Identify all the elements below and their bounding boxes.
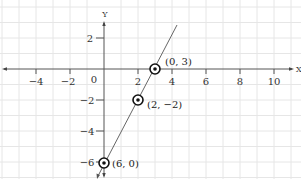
y-axis-arrow-up-icon: [102, 21, 105, 26]
grid: [0, 0, 301, 179]
x-tick-label: 2: [135, 76, 141, 87]
coordinate-graph: −4 −2 0 2 4 6 8 10 2 −2 −4 −6 Y X (0, 3)…: [0, 0, 301, 179]
point-0-3: [150, 64, 160, 74]
x-tick-label: 4: [169, 76, 175, 87]
y-tick-label: −4: [80, 126, 95, 137]
point-2-neg2: [133, 95, 143, 105]
y-tick-label: −6: [80, 157, 95, 168]
x-tick-label: 8: [237, 76, 243, 87]
point-label: (2, −2): [147, 99, 182, 110]
y-axis-label: Y: [101, 10, 108, 19]
point-label: (0, 3): [165, 56, 192, 67]
origin-label: 0: [91, 74, 97, 85]
x-tick-label: 6: [203, 76, 209, 87]
y-ticks: [96, 38, 104, 162]
x-axis-arrow-left-icon: [2, 67, 7, 70]
y-tick-label: −2: [80, 95, 95, 106]
y-tick-label: 2: [87, 33, 93, 44]
point-6-0: [99, 158, 109, 168]
point-label: (6, 0): [112, 158, 139, 169]
x-axis-label: X: [296, 65, 301, 74]
x-tick-label: −2: [61, 76, 76, 87]
line-arrow-icon: [97, 174, 101, 180]
x-tick-label: 10: [268, 76, 281, 87]
x-tick-label: −4: [29, 76, 44, 87]
